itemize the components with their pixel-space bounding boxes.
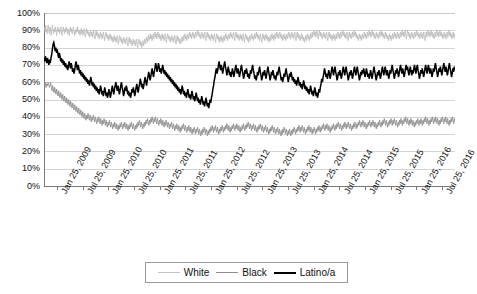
- legend-swatch-black-icon: [216, 272, 238, 273]
- x-axis-tick: [339, 186, 340, 190]
- legend-swatch-white-icon: [158, 272, 180, 273]
- x-axis-tick: [134, 186, 135, 190]
- x-axis-tick: [57, 186, 58, 190]
- x-axis-tick: [365, 186, 366, 190]
- x-axis-tick: [237, 186, 238, 190]
- x-axis-tick: [442, 186, 443, 190]
- x-axis-tick: [108, 186, 109, 190]
- legend-label-white: White: [184, 268, 210, 278]
- x-axis-tick: [160, 186, 161, 190]
- x-axis-tick: [288, 186, 289, 190]
- x-axis-tick: [83, 186, 84, 190]
- legend-entry-black: Black: [216, 268, 266, 278]
- legend-entry-latino: Latino/a: [274, 268, 336, 278]
- x-axis-tick: [211, 186, 212, 190]
- x-axis-tick: [262, 186, 263, 190]
- legend-swatch-latino-icon: [274, 272, 296, 274]
- x-axis-tick: [314, 186, 315, 190]
- x-axis-tick: [391, 186, 392, 190]
- chart-legend: White Black Latino/a: [145, 262, 348, 283]
- legend-entry-white: White: [158, 268, 210, 278]
- legend-label-black: Black: [242, 268, 266, 278]
- legend-label-latino: Latino/a: [300, 268, 336, 278]
- x-axis-tick: [416, 186, 417, 190]
- x-axis-tick: [185, 186, 186, 190]
